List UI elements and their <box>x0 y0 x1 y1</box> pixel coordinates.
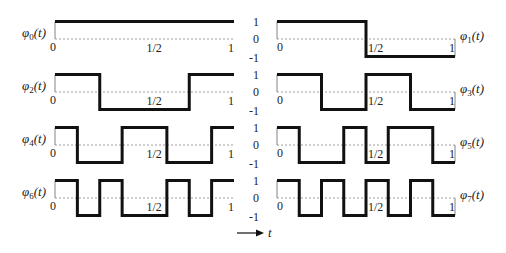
waveform-phi1 <box>277 22 455 57</box>
tick-1: 1 <box>228 200 234 214</box>
tick-0: 0 <box>50 40 56 54</box>
ytick-neg1: -1 <box>249 210 259 224</box>
ytick-1: 1 <box>253 174 259 188</box>
tick-half: 1/2 <box>368 41 383 55</box>
ytick-neg1: -1 <box>249 51 259 65</box>
ytick-1: 1 <box>253 121 259 135</box>
waveform-phi7 <box>277 181 455 216</box>
ytick-1: 1 <box>253 15 259 29</box>
tick-half: 1/2 <box>368 94 383 108</box>
tick-half: 1/2 <box>368 200 383 214</box>
function-label-phi0: φ0(t) <box>22 25 46 42</box>
tick-0: 0 <box>277 93 283 107</box>
tick-0: 0 <box>50 199 56 213</box>
tick-half: 1/2 <box>147 94 162 108</box>
tick-0: 0 <box>50 93 56 107</box>
function-label-phi1: φ1(t) <box>460 28 484 45</box>
tick-1: 1 <box>228 41 234 55</box>
function-label-phi3: φ3(t) <box>460 81 484 98</box>
tick-half: 1/2 <box>368 147 383 161</box>
function-label-phi4: φ4(t) <box>22 131 46 148</box>
tick-0: 0 <box>277 146 283 160</box>
ytick-neg1: -1 <box>249 157 259 171</box>
ytick-neg1: -1 <box>249 104 259 118</box>
tick-0: 0 <box>277 40 283 54</box>
time-axis-label: t <box>268 225 272 240</box>
tick-1: 1 <box>449 200 455 214</box>
waveform-phi3 <box>277 75 455 110</box>
function-label-phi2: φ2(t) <box>22 78 46 95</box>
tick-1: 1 <box>228 147 234 161</box>
tick-0: 0 <box>277 199 283 213</box>
function-label-phi5: φ5(t) <box>460 134 484 151</box>
tick-half: 1/2 <box>147 200 162 214</box>
tick-1: 1 <box>449 94 455 108</box>
function-label-phi7: φ7(t) <box>460 187 484 204</box>
tick-0: 0 <box>50 146 56 160</box>
tick-1: 1 <box>228 94 234 108</box>
function-label-phi6: φ6(t) <box>22 184 46 201</box>
time-arrow-head-icon <box>256 230 264 237</box>
walsh-diagram: 01/21φ0(t)01/21φ1(t)01/21φ2(t)01/21φ3(t)… <box>0 0 506 253</box>
waveform-phi5 <box>277 128 455 163</box>
tick-1: 1 <box>449 147 455 161</box>
ytick-0: 0 <box>253 32 259 46</box>
ytick-1: 1 <box>253 68 259 82</box>
tick-half: 1/2 <box>147 147 162 161</box>
ytick-0: 0 <box>253 191 259 205</box>
ytick-0: 0 <box>253 85 259 99</box>
tick-1: 1 <box>449 41 455 55</box>
tick-half: 1/2 <box>147 41 162 55</box>
ytick-0: 0 <box>253 138 259 152</box>
